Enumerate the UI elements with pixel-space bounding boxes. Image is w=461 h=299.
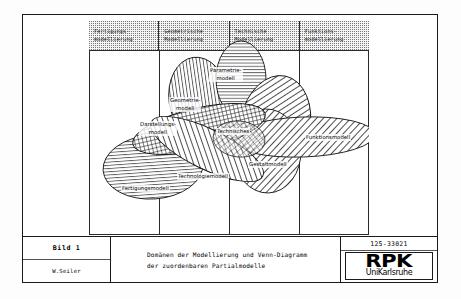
title-block-right: 125-33021 RPK UniKarlsruhe — [341, 237, 437, 282]
label-fertigungsmodell: Fertigungsmodell — [121, 185, 170, 192]
label-funktionsmodell: Funktionsmodell — [305, 134, 351, 141]
venn-diagram-area: Fertigungs- modellierung Geometrische Mo… — [89, 21, 369, 235]
domain-header-funktion: Funktions- modellierung — [300, 21, 369, 50]
caption-line-2: der zuordenbaren Partialmodelle — [147, 260, 340, 271]
label-geometriemodell: Geometrie- modell — [169, 97, 201, 112]
column-divider-3 — [299, 21, 300, 235]
domain-header-fertigung-line2: modellierung — [94, 36, 158, 44]
label-geometriemodell-line1: Geometrie- — [170, 97, 200, 105]
title-block-caption: Domänen der Modellierung und Venn-Diagra… — [111, 237, 341, 282]
document-number: 125-33021 — [341, 237, 437, 251]
domain-header-geometrie: Geometrische Modellierung — [159, 21, 229, 50]
domain-header-technik-line2: Modellierung — [235, 36, 299, 44]
title-block-left: Bild 1 W.Seiler — [23, 237, 111, 282]
domain-header-funktion-line1: Funktions- — [305, 28, 369, 36]
drawing-sheet: Fertigungs- modellierung Geometrische Mo… — [22, 14, 438, 283]
label-darstellungsmodell-line1: Darstellungs- — [140, 121, 176, 129]
domain-header-geometrie-line2: Modellierung — [164, 36, 228, 44]
screenshot-page: Fertigungs- modellierung Geometrische Mo… — [0, 0, 461, 299]
domain-header-fertigung: Fertigungs- modellierung — [89, 21, 159, 50]
title-block: Bild 1 W.Seiler Domänen der Modellierung… — [23, 236, 437, 282]
label-parametriemodell: Parametrie- modell — [209, 67, 243, 82]
author-label: W.Seiler — [23, 260, 110, 282]
label-technischesmodell: Technisches — [216, 128, 250, 135]
label-gestaltmodell: Gestaltmodell — [248, 161, 288, 168]
domain-header-band: Fertigungs- modellierung Geometrische Mo… — [89, 21, 369, 51]
label-technischesmodell-line1: Technisches — [217, 128, 249, 135]
label-gestaltmodell-line1: Gestaltmodell — [249, 161, 287, 168]
domain-header-technik: Technische Modellierung — [230, 21, 300, 50]
caption-line-1: Domänen der Modellierung und Venn-Diagra… — [147, 249, 340, 260]
rpk-logo: RPK UniKarlsruhe — [345, 252, 433, 280]
domain-header-funktion-line2: modellierung — [305, 36, 369, 44]
label-parametriemodell-line1: Parametrie- — [210, 67, 242, 75]
domain-header-fertigung-line1: Fertigungs- — [94, 28, 158, 36]
label-funktionsmodell-line1: Funktionsmodell — [306, 134, 350, 141]
figure-label: Bild 1 — [23, 237, 110, 260]
label-technologiemodell-line1: Technologiemodell — [178, 173, 228, 180]
label-technologiemodell: Technologiemodell — [177, 173, 229, 180]
domain-header-geometrie-line1: Geometrische — [164, 28, 228, 36]
rpk-logo-main: RPK — [366, 253, 413, 269]
label-darstellungsmodell: Darstellungs- modell — [139, 121, 177, 136]
label-geometriemodell-line2: modell — [170, 105, 200, 113]
label-parametriemodell-line2: modell — [210, 75, 242, 83]
label-fertigungsmodell-line1: Fertigungsmodell — [122, 185, 169, 192]
domain-header-technik-line1: Technische — [235, 28, 299, 36]
label-darstellungsmodell-line2: modell — [140, 129, 176, 137]
